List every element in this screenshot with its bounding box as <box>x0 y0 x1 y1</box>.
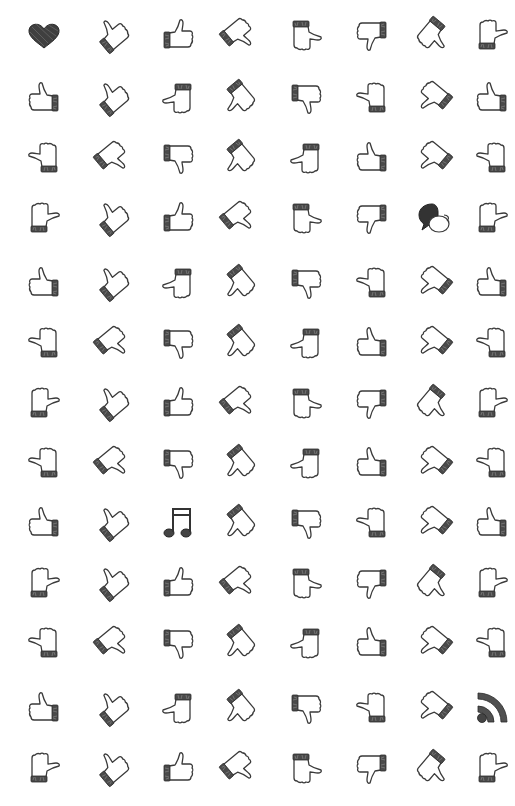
thumbs-up-icon <box>352 443 392 483</box>
thumbs-up-icon <box>218 263 258 303</box>
thumbs-up-icon <box>412 686 456 730</box>
thumbs-up-icon <box>22 196 66 240</box>
thumbs-up-icon <box>24 383 64 423</box>
thumbs-up-icon <box>286 15 326 55</box>
thumbs-up-icon <box>472 15 512 55</box>
thumbs-up-icon <box>470 261 514 305</box>
thumbs-up-icon <box>414 563 454 603</box>
thumbs-up-icon <box>284 13 328 57</box>
thumbs-down-icon <box>350 196 394 240</box>
thumbs-down-icon <box>158 623 198 663</box>
thumbs-down-icon <box>284 261 328 305</box>
thumbs-down-icon <box>350 561 394 605</box>
thumbs-up-icon <box>92 688 132 728</box>
thumbs-up-icon <box>352 623 392 663</box>
thumbs-up-icon <box>158 688 198 728</box>
thumbs-up-icon <box>350 621 394 665</box>
thumbs-up-icon <box>218 15 258 55</box>
thumbs-up-icon <box>24 563 64 603</box>
thumbs-up-icon <box>216 321 260 365</box>
thumbs-up-icon <box>414 263 454 303</box>
thumbs-up-icon <box>156 76 200 120</box>
thumbs-up-icon <box>158 563 198 603</box>
thumbs-up-icon <box>414 383 454 423</box>
thumbs-up-icon <box>470 196 514 240</box>
thumbs-up-icon <box>470 136 514 180</box>
thumbs-up-icon <box>472 503 512 543</box>
thumbs-up-icon <box>158 263 198 303</box>
thumbs-up-icon <box>286 563 326 603</box>
thumbs-up-icon <box>92 383 132 423</box>
rss-feed-icon <box>472 688 512 728</box>
rss-feed-icon <box>470 686 514 730</box>
thumbs-up-icon <box>470 381 514 425</box>
thumbs-up-icon <box>218 138 258 178</box>
thumbs-up-icon <box>90 561 134 605</box>
thumbs-up-icon <box>284 621 328 665</box>
thumbs-up-icon <box>216 441 260 485</box>
thumbs-up-icon <box>350 136 394 180</box>
thumbs-down-icon <box>156 441 200 485</box>
music-note-icon <box>156 501 200 545</box>
thumbs-down-icon <box>158 138 198 178</box>
thumbs-up-icon <box>156 686 200 730</box>
thumbs-up-icon <box>350 501 394 545</box>
thumbs-down-icon <box>156 621 200 665</box>
thumbs-up-icon <box>90 381 134 425</box>
thumbs-down-icon <box>286 503 326 543</box>
thumbs-up-icon <box>218 503 258 543</box>
speech-bubbles-icon <box>414 198 454 238</box>
thumbs-up-icon <box>286 383 326 423</box>
thumbs-up-icon <box>412 441 456 485</box>
thumbs-up-icon <box>90 76 134 120</box>
thumbs-up-icon <box>92 443 132 483</box>
heart-icon <box>22 13 66 57</box>
thumbs-up-icon <box>216 13 260 57</box>
thumbs-up-icon <box>90 13 134 57</box>
thumbs-up-icon <box>350 321 394 365</box>
thumbs-up-icon <box>158 748 198 788</box>
thumbs-up-icon <box>216 196 260 240</box>
thumbs-up-icon <box>92 623 132 663</box>
thumbs-up-icon <box>414 138 454 178</box>
thumbs-up-icon <box>24 623 64 663</box>
music-note-icon <box>158 503 198 543</box>
thumbs-up-icon <box>22 381 66 425</box>
thumbs-up-icon <box>286 443 326 483</box>
thumbs-up-icon <box>216 136 260 180</box>
thumbs-up-icon <box>216 746 260 790</box>
thumbs-down-icon <box>156 136 200 180</box>
thumbs-up-icon <box>218 688 258 728</box>
thumbs-up-icon <box>22 561 66 605</box>
thumbs-down-icon <box>284 686 328 730</box>
thumbs-up-icon <box>412 321 456 365</box>
thumbs-up-icon <box>156 13 200 57</box>
thumbs-up-icon <box>412 261 456 305</box>
thumbs-up-icon <box>22 621 66 665</box>
thumbs-up-icon <box>350 76 394 120</box>
thumbs-up-icon <box>414 748 454 788</box>
thumbs-up-icon <box>412 561 456 605</box>
thumbs-up-icon <box>92 198 132 238</box>
thumbs-up-icon <box>156 196 200 240</box>
thumbs-up-icon <box>92 15 132 55</box>
thumbs-up-icon <box>218 198 258 238</box>
thumbs-down-icon <box>158 443 198 483</box>
thumbs-up-icon <box>352 263 392 303</box>
thumbs-up-icon <box>412 746 456 790</box>
thumbs-down-icon <box>156 321 200 365</box>
thumbs-up-icon <box>414 623 454 663</box>
thumbs-up-icon <box>218 623 258 663</box>
thumbs-up-icon <box>412 381 456 425</box>
thumbs-down-icon <box>352 383 392 423</box>
thumbs-up-icon <box>286 323 326 363</box>
thumbs-up-icon <box>22 321 66 365</box>
thumbs-up-icon <box>350 441 394 485</box>
thumbs-up-icon <box>24 198 64 238</box>
thumbs-up-icon <box>24 443 64 483</box>
thumbs-up-icon <box>472 443 512 483</box>
thumbs-up-icon <box>24 323 64 363</box>
thumbs-up-icon <box>284 441 328 485</box>
thumbs-up-icon <box>352 323 392 363</box>
thumbs-up-icon <box>414 78 454 118</box>
